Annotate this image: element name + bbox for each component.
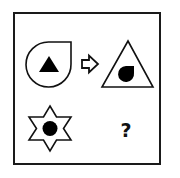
arrow-right-icon xyxy=(82,56,98,73)
source-figure xyxy=(26,42,71,87)
star-figure xyxy=(29,106,71,151)
target-figure xyxy=(102,41,153,87)
teardrop-solid-icon xyxy=(118,66,134,82)
puzzle-canvas xyxy=(0,0,180,178)
answer-placeholder: ? xyxy=(116,119,136,141)
circle-solid-icon xyxy=(43,121,58,136)
